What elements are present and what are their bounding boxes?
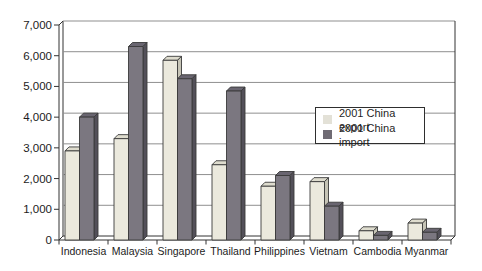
x-axis-label: Malaysia [112, 245, 154, 257]
y-axis-label: 2,000 [23, 173, 52, 185]
y-axis-label: 6,000 [23, 50, 52, 62]
x-axis-label: Myanmar [405, 245, 449, 257]
bar-myanmar-import [423, 232, 438, 240]
x-axis-label: Indonesia [61, 245, 107, 257]
bar-singapore-export [163, 60, 178, 240]
bar-philippines-import-side [290, 172, 294, 241]
bar-singapore-import-side [192, 75, 196, 240]
bar-malaysia-import [129, 47, 144, 241]
bar-thailand-import [227, 91, 242, 240]
bar-indonesia-import-side [94, 113, 98, 240]
x-axis-label: Vietnam [309, 245, 348, 257]
bar-malaysia-import-side [143, 43, 147, 241]
x-axis-label: Cambodia [354, 245, 402, 257]
x-axis-label: Singapore [158, 245, 206, 257]
y-axis-label: 1,000 [23, 203, 52, 215]
legend-label-import: 2001 China import [339, 121, 424, 149]
y-axis-label: 7,000 [23, 19, 52, 31]
bar-malaysia-export [114, 139, 129, 240]
y-axis-label: 5,000 [23, 80, 52, 92]
bar-indonesia-export [65, 151, 80, 240]
figure: 01,0002,0003,0004,0005,0006,0007,000Indo… [0, 0, 482, 271]
x-axis-label: Philippines [254, 245, 305, 257]
legend: 2001 China export 2001 China import [315, 107, 425, 144]
bar-cambodia-import [374, 235, 389, 240]
export-swatch [323, 115, 332, 124]
y-axis-label: 4,000 [23, 111, 52, 123]
bar-philippines-export [261, 186, 276, 240]
bar-philippines-import [276, 176, 291, 241]
bar-vietnam-import-side [339, 202, 343, 240]
legend-item-import: 2001 China import [323, 127, 424, 142]
bar-thailand-export [212, 165, 227, 240]
bar-vietnam-export [310, 182, 325, 240]
bar-indonesia-import [80, 117, 95, 240]
bar-thailand-import-side [241, 87, 245, 240]
bar-vietnam-import [325, 206, 340, 240]
y-axis-label: 0 [46, 234, 52, 246]
bar-singapore-import [178, 79, 193, 240]
import-swatch [323, 130, 332, 139]
y-axis-label: 3,000 [23, 142, 52, 154]
x-axis-label: Thailand [210, 245, 250, 257]
left-wall [59, 21, 63, 240]
bar-cambodia-export [359, 231, 374, 240]
bar-myanmar-export [408, 223, 423, 240]
